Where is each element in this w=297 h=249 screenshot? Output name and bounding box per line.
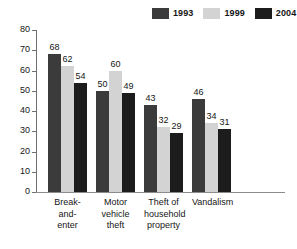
y-tick-label-20: 20	[20, 146, 30, 157]
bar-slot: 50	[96, 30, 109, 192]
y-tick-label-80: 80	[20, 24, 30, 35]
category-label: Break-and-enter	[48, 197, 87, 232]
bar-slot: 43	[144, 30, 157, 192]
bar-1993[interactable]	[192, 99, 205, 192]
bar-slot: 62	[61, 30, 74, 192]
legend-label-2004: 2004	[276, 8, 296, 19]
y-tick-mark-80	[32, 30, 36, 31]
bar-2004[interactable]	[218, 129, 231, 192]
bar-value-label: 60	[110, 59, 120, 69]
bar-group: 463431	[192, 30, 231, 192]
legend-item-2004[interactable]: 2004	[255, 8, 296, 19]
category-label-line: Theft of	[144, 197, 183, 209]
category-label-line: Break-and-	[48, 197, 87, 220]
bar-slot: 49	[122, 30, 135, 192]
y-tick-label-50: 50	[20, 85, 30, 96]
bar-2004[interactable]	[74, 83, 87, 192]
y-tick-mark-50	[32, 91, 36, 92]
bar-value-label: 29	[171, 121, 181, 131]
category-label-line: vehicle theft	[96, 209, 135, 232]
bar-value-label: 54	[75, 71, 85, 81]
y-tick-mark-0	[32, 192, 36, 193]
y-tick-mark-70	[32, 50, 36, 51]
bar-2004[interactable]	[170, 133, 183, 192]
bar-value-label: 32	[158, 115, 168, 125]
bar-value-label: 49	[123, 81, 133, 91]
y-tick-label-10: 10	[20, 166, 30, 177]
bar-slot: 54	[74, 30, 87, 192]
bar-1999[interactable]	[157, 127, 170, 192]
bar-value-label: 62	[62, 54, 72, 64]
category-label: Vandalism	[192, 197, 231, 232]
y-tick-mark-10	[32, 172, 36, 173]
bar-2004[interactable]	[122, 93, 135, 192]
y-tick-mark-40	[32, 111, 36, 112]
bar-value-label: 31	[219, 117, 229, 127]
y-tick-mark-30	[32, 131, 36, 132]
bar-chart: 199319992004 80706050403020100 686254506…	[0, 0, 297, 249]
y-tick-label-70: 70	[20, 44, 30, 55]
bar-1993[interactable]	[144, 105, 157, 192]
bar-slot: 29	[170, 30, 183, 192]
bar-1993[interactable]	[48, 54, 61, 192]
bar-slot: 68	[48, 30, 61, 192]
category-label-line: enter	[48, 220, 87, 232]
bar-value-label: 46	[193, 87, 203, 97]
y-tick-label-0: 0	[25, 186, 30, 197]
y-tick-mark-20	[32, 152, 36, 153]
category-label-line: property	[144, 220, 183, 232]
bar-value-label: 50	[97, 79, 107, 89]
category-label: Theft ofhouseholdproperty	[144, 197, 183, 232]
category-label-line: household	[144, 209, 183, 221]
bar-slot: 34	[205, 30, 218, 192]
bar-group: 506049	[96, 30, 135, 192]
legend-item-1993[interactable]: 1993	[152, 8, 193, 19]
y-tick-label-60: 60	[20, 65, 30, 76]
x-axis-line	[36, 192, 285, 193]
legend-swatch-2004	[255, 8, 272, 19]
bar-1999[interactable]	[109, 71, 122, 193]
y-tick-label-40: 40	[20, 105, 30, 116]
bar-group: 686254	[48, 30, 87, 192]
bar-slot: 31	[218, 30, 231, 192]
category-label: Motorvehicle theft	[96, 197, 135, 232]
bar-groups: 686254506049433229463431	[37, 30, 285, 192]
legend-item-1999[interactable]: 1999	[203, 8, 244, 19]
bar-slot: 60	[109, 30, 122, 192]
category-label-line: Vandalism	[192, 197, 231, 209]
category-label-line: Motor	[96, 197, 135, 209]
legend-label-1999: 1999	[224, 8, 244, 19]
bar-value-label: 34	[206, 111, 216, 121]
plot-area: 80706050403020100 6862545060494332294634…	[36, 30, 285, 192]
bar-1999[interactable]	[205, 123, 218, 192]
chart-legend: 199319992004	[152, 6, 296, 20]
legend-swatch-1999	[203, 8, 220, 19]
bar-slot: 32	[157, 30, 170, 192]
y-tick-0: 0	[36, 192, 37, 193]
bar-1999[interactable]	[61, 66, 74, 192]
bar-1993[interactable]	[96, 91, 109, 192]
bar-value-label: 43	[145, 93, 155, 103]
bar-slot: 46	[192, 30, 205, 192]
legend-swatch-1993	[152, 8, 169, 19]
y-tick-label-30: 30	[20, 125, 30, 136]
y-tick-mark-60	[32, 71, 36, 72]
bar-value-label: 68	[49, 42, 59, 52]
x-axis-category-labels: Break-and-enterMotorvehicle theftTheft o…	[37, 197, 285, 232]
bar-group: 433229	[144, 30, 183, 192]
legend-label-1993: 1993	[173, 8, 193, 19]
